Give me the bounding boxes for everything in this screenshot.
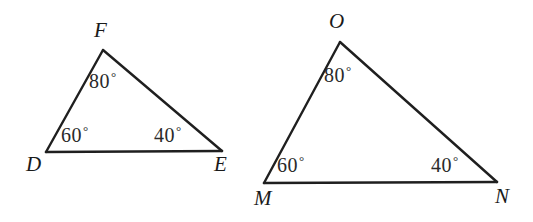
angle-value-o: 80 <box>324 64 345 86</box>
side-de <box>46 151 222 152</box>
degree-symbol-icon: ° <box>346 63 352 78</box>
degree-symbol-icon: ° <box>453 153 459 168</box>
degree-symbol-icon: ° <box>111 69 117 84</box>
angle-measure-o: 80° <box>324 64 352 85</box>
angle-value-d: 60 <box>61 124 82 146</box>
angle-measure-f: 80° <box>89 70 117 91</box>
angle-measure-m: 60° <box>277 154 305 175</box>
angle-measure-e: 40° <box>154 124 182 145</box>
vertex-label-n: N <box>495 186 509 207</box>
degree-symbol-icon: ° <box>176 123 182 138</box>
vertex-label-m: M <box>254 188 272 209</box>
angle-value-f: 80 <box>89 70 110 92</box>
degree-symbol-icon: ° <box>299 153 305 168</box>
side-mn <box>264 182 497 183</box>
vertex-label-f: F <box>94 20 107 41</box>
vertex-label-o: O <box>329 11 344 32</box>
angle-value-m: 60 <box>277 154 298 176</box>
vertex-label-d: D <box>26 154 41 175</box>
geometry-figure: F D E 80° 60° 40° O M N 80° 60° 40° <box>0 0 533 222</box>
angle-measure-n: 40° <box>431 154 459 175</box>
angle-value-e: 40 <box>154 124 175 146</box>
angle-measure-d: 60° <box>61 124 89 145</box>
vertex-label-e: E <box>214 154 227 175</box>
degree-symbol-icon: ° <box>83 123 89 138</box>
angle-value-n: 40 <box>431 154 452 176</box>
